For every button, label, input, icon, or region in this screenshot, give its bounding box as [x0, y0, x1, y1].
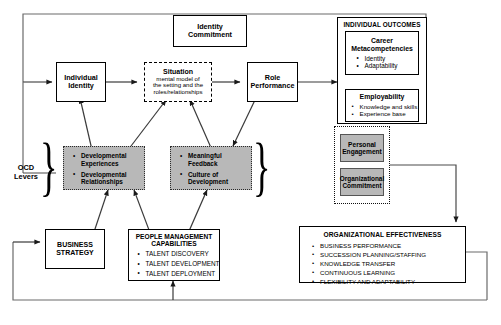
node-organizational-effectiveness[interactable]: ORGANIZATIONAL EFFECTIVENESS BUSINESS PE…: [299, 226, 466, 283]
employability-bullet: Knowledge and skills: [351, 103, 419, 110]
employability-title: Employability: [360, 93, 405, 101]
node-business-strategy[interactable]: BUSINESS STRATEGY: [45, 229, 105, 269]
organizational-commitment-line2: Commitment: [342, 182, 381, 189]
developmental-bullet2-line1: Developmental: [81, 171, 126, 178]
node-people-management-capabilities[interactable]: PEOPLE MANAGEMENT CAPABILITIES TALENT DI…: [128, 229, 220, 281]
people-management-line2: CAPABILITIES: [151, 240, 196, 247]
role-performance-label-line2: Performance: [251, 82, 295, 90]
career-metacompetencies-line2: Metacompetencies: [351, 45, 413, 53]
developmental-bullet1-line2: Experiences: [81, 160, 119, 167]
organizational-effectiveness-bullet: CONTINUOUS LEARNING: [311, 269, 466, 276]
node-personal-engagement[interactable]: Personal Engagement: [340, 134, 384, 162]
identity-commitment-label-line2: Commitment: [188, 31, 232, 39]
feedback-bullet2-line2: Development: [188, 178, 228, 185]
individual-identity-label-line2: Identity: [68, 82, 94, 90]
organizational-effectiveness-bullet: BUSINESS PERFORMANCE: [311, 242, 466, 249]
feedback-bullet1-line1: Meaningful: [188, 152, 222, 159]
people-management-line1: PEOPLE MANAGEMENT: [136, 233, 213, 240]
ocd-levers-line2: Levers: [5, 172, 47, 181]
career-metacompetency-bullet: Adaptability: [356, 62, 424, 70]
feedback-bullet1-line2: Feedback: [188, 160, 217, 167]
node-individual-identity[interactable]: Individual Identity: [56, 62, 106, 102]
situation-sub-3: roles/relationships: [153, 89, 202, 96]
organizational-commitment-line1: Organizational: [340, 175, 384, 182]
feedback-bullet2-line1: Culture of: [188, 171, 218, 178]
career-metacompetencies-line1: Career: [371, 37, 393, 45]
developmental-bullet2-line2: Relationships: [81, 178, 123, 185]
ocd-levers-line1: OCD: [5, 163, 47, 172]
developmental-bullet1-line1: Developmental: [81, 152, 126, 159]
individual-outcomes-header: INDIVIDUAL OUTCOMES: [337, 21, 427, 29]
people-management-bullet: TALENT DEPLOYMENT: [137, 270, 221, 278]
organizational-effectiveness-bullet: FLEXIBILITY AND ADAPTABILITY: [311, 278, 466, 285]
business-strategy-line1: BUSINESS: [57, 241, 93, 249]
node-situation[interactable]: Situation mental model of the setting an…: [144, 62, 212, 102]
diagram-canvas: Identity Commitment Individual Identity …: [0, 0, 501, 325]
career-metacompetency-bullet: Identity: [356, 55, 424, 63]
business-strategy-line2: STRATEGY: [56, 249, 94, 257]
node-identity-commitment[interactable]: Identity Commitment: [173, 15, 247, 47]
node-role-performance[interactable]: Role Performance: [247, 62, 298, 102]
personal-engagement-line2: Engagement: [342, 148, 382, 155]
people-management-bullet: TALENT DISCOVERY: [137, 250, 221, 258]
organizational-effectiveness-header: ORGANIZATIONAL EFFECTIVENESS: [305, 231, 460, 238]
organizational-effectiveness-bullet: KNOWLEDGE TRANSFER: [311, 260, 466, 267]
employability-bullet: Experience base: [351, 110, 419, 117]
people-management-bullet: TALENT DEVELOPMENT: [137, 260, 221, 268]
node-organizational-commitment[interactable]: Organizational Commitment: [340, 168, 384, 196]
node-feedback-culture-levers[interactable]: Meaningful Feedback Culture of Developme…: [170, 146, 252, 190]
node-career-metacompetencies[interactable]: Career Metacompetencies Identity Adaptab…: [345, 31, 419, 75]
personal-engagement-line1: Personal: [348, 141, 376, 148]
node-employability[interactable]: Employability Knowledge and skills Exper…: [345, 89, 419, 122]
right-brace: }: [253, 128, 270, 204]
node-developmental-levers[interactable]: Developmental Experiences Developmental …: [63, 146, 145, 190]
organizational-effectiveness-bullet: SUCCESSION PLANNING/STAFFING: [311, 251, 466, 258]
ocd-levers-label: OCD Levers: [5, 163, 47, 182]
